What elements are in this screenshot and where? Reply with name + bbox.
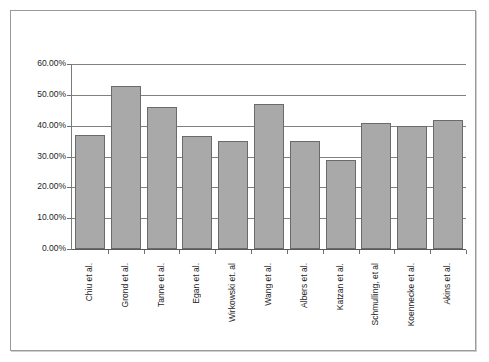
y-axis-tick-label-group: 60.00%50.00%40.00%30.00%20.00%10.00%0.00… <box>11 11 66 352</box>
bar <box>218 141 248 249</box>
x-axis-tick-mark <box>215 250 216 254</box>
plot-area <box>72 64 466 249</box>
bar <box>75 135 105 249</box>
y-axis-tick-label: 30.00% <box>14 152 66 161</box>
x-axis-tick-mark <box>144 250 145 254</box>
x-axis-tick-mark <box>466 250 467 254</box>
y-axis-tick-label: 60.00% <box>14 59 66 68</box>
bar <box>397 126 427 249</box>
bar <box>361 123 391 249</box>
y-axis-tick-label: 10.00% <box>14 213 66 222</box>
x-axis-tick-mark <box>251 250 252 254</box>
y-axis-tick-mark <box>67 218 71 219</box>
gridline <box>72 64 466 65</box>
x-axis-tick-mark <box>323 250 324 254</box>
x-axis-tick-mark <box>430 250 431 254</box>
bar <box>290 141 320 249</box>
y-axis-tick-mark <box>67 157 71 158</box>
y-axis-tick-label: 0.00% <box>14 244 66 253</box>
bar <box>111 86 141 249</box>
bar <box>147 107 177 249</box>
x-axis-tick-mark <box>287 250 288 254</box>
y-axis-tick-mark <box>67 126 71 127</box>
x-axis-tick-mark <box>179 250 180 254</box>
y-axis-tick-mark <box>67 64 71 65</box>
y-axis-tick-mark <box>67 187 71 188</box>
x-axis-tick-mark <box>394 250 395 254</box>
bar <box>326 160 356 249</box>
chart-frame: 60.00%50.00%40.00%30.00%20.00%10.00%0.00… <box>10 10 476 351</box>
x-axis-category-label: Akins et al. <box>443 263 489 305</box>
y-axis-tick-label: 50.00% <box>14 90 66 99</box>
y-axis-tick-mark <box>67 95 71 96</box>
x-axis-tick-mark <box>359 250 360 254</box>
x-axis-tick-mark <box>108 250 109 254</box>
y-axis-tick-label: 20.00% <box>14 182 66 191</box>
bar <box>182 136 212 249</box>
bar <box>433 120 463 250</box>
y-axis-tick-mark <box>67 249 71 250</box>
x-axis-baseline <box>72 249 466 250</box>
bar <box>254 104 284 249</box>
y-axis-tick-label: 40.00% <box>14 121 66 130</box>
